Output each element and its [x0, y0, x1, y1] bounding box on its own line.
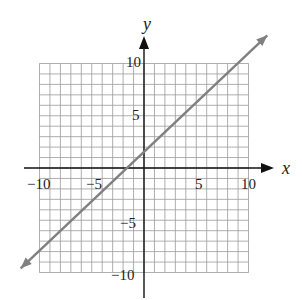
y-tick-label-5: 5	[132, 108, 140, 123]
y-axis-label: y	[143, 15, 151, 33]
x-tick-label-neg5: −5	[86, 177, 102, 192]
axes	[24, 36, 274, 298]
y-tick-label-neg10: −10	[111, 268, 134, 283]
x-tick-label-5: 5	[195, 177, 203, 192]
y-tick-label-neg5: −5	[120, 216, 136, 231]
x-tick-label-10: 10	[241, 177, 256, 192]
y-tick-label-10: 10	[126, 55, 141, 70]
x-tick-label-neg10: −10	[27, 177, 50, 192]
x-axis-label: x	[282, 159, 290, 177]
coordinate-plane	[0, 0, 302, 300]
